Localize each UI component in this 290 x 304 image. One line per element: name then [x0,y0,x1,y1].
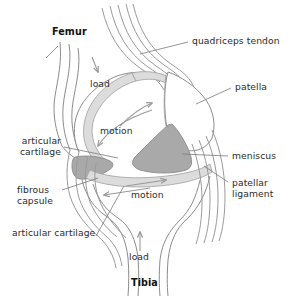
leader-quadriceps-tendon [140,42,188,54]
label-load-upper: load [90,79,110,90]
label-patellar-ligament-line1: patellar [232,178,268,189]
label-patella: patella [235,82,267,93]
label-articular-cartilage-line1: articular [0,136,61,147]
label-femur: Femur [52,27,87,38]
leader-femur [46,46,58,58]
load-arrow-femur [92,57,98,72]
label-patellar-ligament-line2: ligament [232,189,273,200]
label-load-lower: load [129,252,149,263]
label-fibrous-capsule-line1: fibrous [17,185,49,196]
label-tibia: Tibia [131,278,158,289]
label-fibrous-capsule-line2: capsule [17,196,53,207]
label-meniscus: meniscus [232,151,276,162]
label-articular-cartilage-line2: cartilage [0,147,61,158]
knee-anatomy-figure: Femur Tibia quadriceps tendon patella me… [0,0,290,304]
label-motion-upper: motion [100,126,133,137]
label-quadriceps-tendon: quadriceps tendon [192,36,280,47]
label-motion-lower: motion [131,190,164,201]
label-articular-cartilage-lower: articular cartilage [12,228,95,239]
